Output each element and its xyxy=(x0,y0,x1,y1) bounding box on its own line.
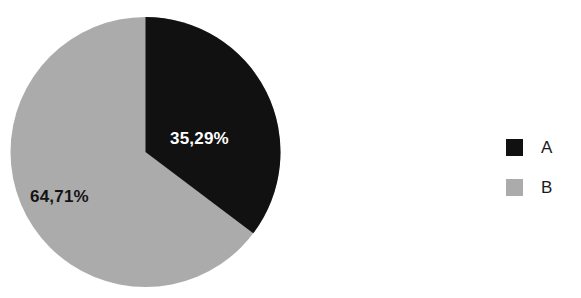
chart-title-clipped xyxy=(0,0,581,3)
pie-chart: 35,29% 64,71% xyxy=(10,17,281,287)
pie-slice-b-value-label: 64,71% xyxy=(30,187,89,207)
chart-legend: A B xyxy=(506,127,552,207)
legend-item-b[interactable]: B xyxy=(506,167,552,207)
pie-slice-a-value-label: 35,29% xyxy=(170,129,229,149)
legend-swatch-a-icon xyxy=(506,139,523,156)
legend-label-a: A xyxy=(541,139,552,156)
legend-swatch-b-icon xyxy=(506,179,523,196)
legend-item-a[interactable]: A xyxy=(506,127,552,167)
legend-label-b: B xyxy=(541,179,552,196)
pie-chart-svg xyxy=(10,17,281,287)
chart-canvas: 35,29% 64,71% A B xyxy=(0,0,581,298)
